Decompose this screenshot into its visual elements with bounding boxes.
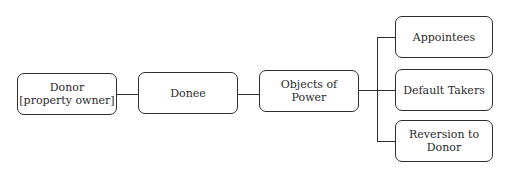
edge-branch-trunk	[377, 37, 378, 142]
node-reversion-to-donor: Reversion to Donor	[395, 120, 493, 162]
edge-donee-objects	[237, 94, 259, 95]
node-appointees: Appointees	[395, 16, 493, 58]
edge-donor-donee	[116, 94, 138, 95]
node-appointees-label: Appointees	[413, 31, 475, 44]
node-donee-label: Donee	[170, 87, 206, 100]
node-objects-of-power: Objects of Power	[259, 70, 359, 112]
node-default-takers-label: Default Takers	[403, 84, 485, 97]
node-default-takers: Default Takers	[395, 69, 493, 111]
node-objects-of-power-label: Objects of Power	[281, 78, 337, 104]
node-donor-label: Donor [property owner]	[19, 81, 114, 107]
node-donee: Donee	[138, 72, 238, 114]
node-reversion-to-donor-label: Reversion to Donor	[409, 128, 479, 154]
node-donor: Donor [property owner]	[17, 73, 117, 115]
